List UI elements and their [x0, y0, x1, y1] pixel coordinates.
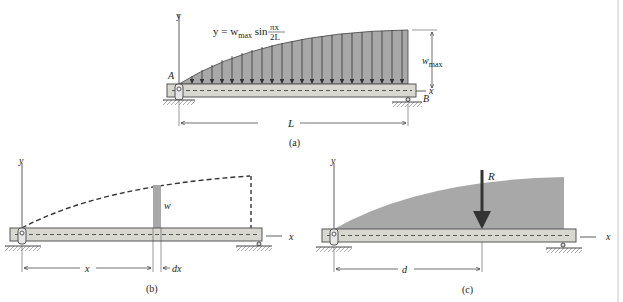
- label-dx: dx: [172, 263, 182, 274]
- differential-strip: [153, 185, 161, 228]
- figure-c: y R x d (c): [316, 155, 611, 296]
- figure-b: y w x x dx (b): [5, 155, 294, 295]
- label-x-a: x: [428, 85, 434, 96]
- label-a: A: [167, 70, 175, 81]
- load-curve-dashed: [22, 176, 250, 228]
- caption-a: (a): [289, 137, 300, 149]
- distributed-load-area: [179, 30, 408, 84]
- label-y-c: y: [330, 155, 336, 166]
- roller-support-b: [392, 98, 422, 108]
- load-area: [334, 177, 564, 229]
- label-x-distance: x: [84, 263, 90, 274]
- label-x-b: x: [288, 231, 294, 242]
- label-y-a: y: [176, 10, 181, 21]
- label-r: R: [487, 170, 495, 182]
- label-w-b: w: [164, 200, 171, 211]
- caption-b: (b): [146, 283, 158, 295]
- label-y-b: y: [18, 155, 24, 166]
- equation-denominator: 2L: [270, 32, 280, 42]
- label-x-c: x: [605, 231, 611, 242]
- label-d: d: [402, 264, 408, 275]
- caption-c: (c): [462, 284, 473, 296]
- beam-diagrams: y y = wmax sin πx 2L A B x wmax L (a): [0, 0, 623, 302]
- load-equation: y = wmax sin: [213, 25, 268, 40]
- figure-a: y y = wmax sin πx 2L A B x wmax L (a): [163, 10, 442, 149]
- equation-numerator: πx: [270, 22, 280, 32]
- label-l: L: [287, 117, 294, 129]
